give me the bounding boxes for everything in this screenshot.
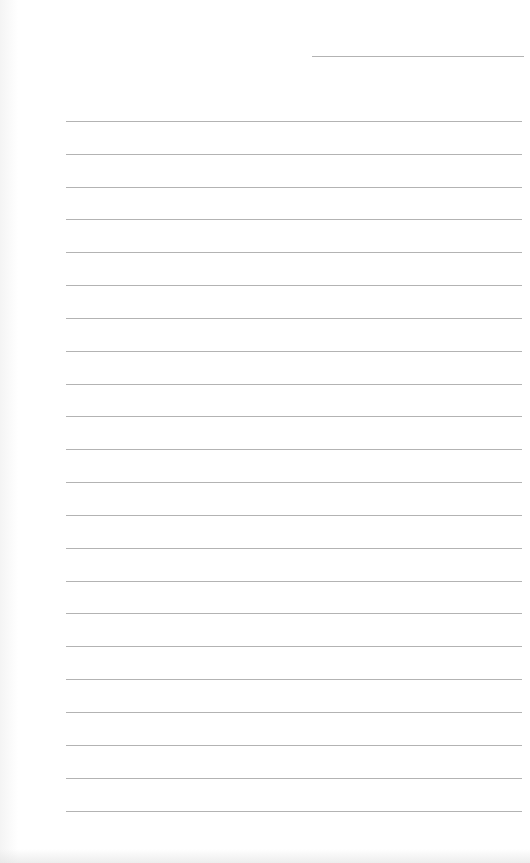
ruled-line	[66, 121, 522, 122]
page-bottom-shadow	[0, 849, 530, 863]
ruled-line	[66, 712, 522, 713]
header-line	[312, 56, 524, 57]
ruled-line	[66, 285, 522, 286]
ruled-line	[66, 318, 522, 319]
ruled-line	[66, 482, 522, 483]
ruled-line	[66, 811, 522, 812]
ruled-line	[66, 416, 522, 417]
ruled-line	[66, 384, 522, 385]
lined-paper-page	[0, 0, 530, 863]
ruled-line	[66, 548, 522, 549]
ruled-line	[66, 778, 522, 779]
ruled-line	[66, 252, 522, 253]
ruled-line	[66, 187, 522, 188]
ruled-line	[66, 449, 522, 450]
ruled-line	[66, 219, 522, 220]
ruled-line	[66, 745, 522, 746]
ruled-line	[66, 613, 522, 614]
ruled-line	[66, 646, 522, 647]
ruled-line	[66, 581, 522, 582]
ruled-line	[66, 351, 522, 352]
ruled-line	[66, 154, 522, 155]
ruled-line	[66, 679, 522, 680]
ruled-line	[66, 515, 522, 516]
